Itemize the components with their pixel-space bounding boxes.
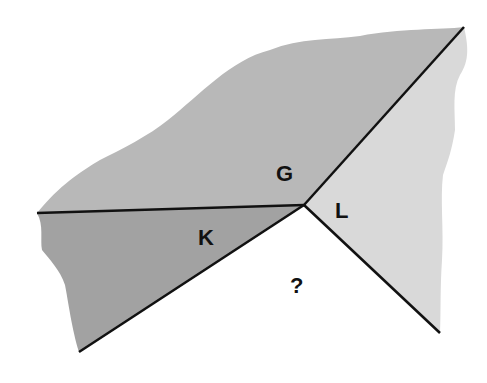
label-l: L	[335, 198, 348, 223]
label-g: G	[276, 161, 293, 186]
label-unknown: ?	[290, 273, 303, 298]
label-k: K	[198, 225, 214, 250]
region-k	[37, 205, 304, 352]
angle-diagram: G L K ?	[0, 0, 487, 383]
